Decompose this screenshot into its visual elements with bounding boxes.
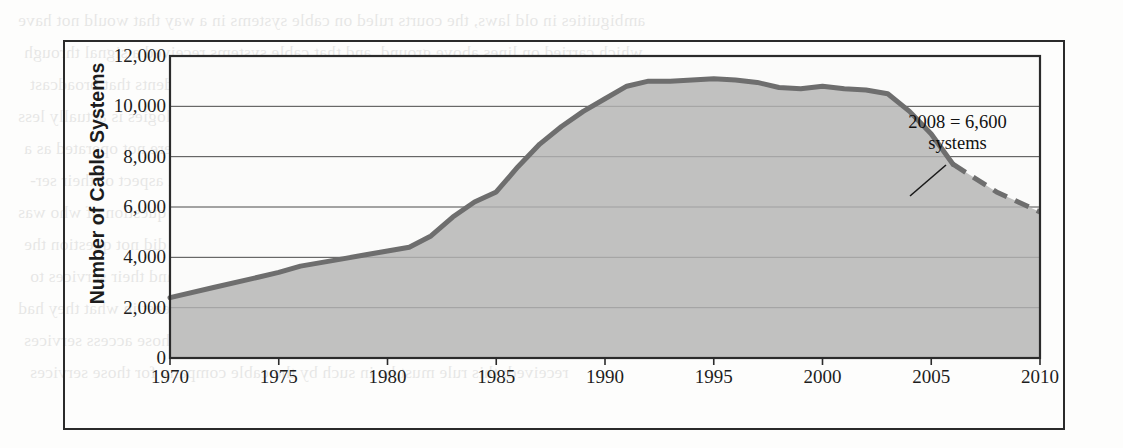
- figure-frame: [63, 40, 1065, 430]
